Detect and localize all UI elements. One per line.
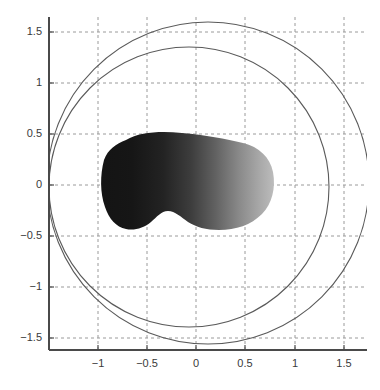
x-tick-label-2: −0.5 [122,357,172,369]
plot-area [0,0,380,390]
x-tick-label-4: 0.5 [220,357,270,369]
y-tick-label-1: 1.5 [4,25,42,37]
x-tick-label-3: 0 [171,357,221,369]
gradient-blob [101,132,274,230]
y-tick-label-7: −1.5 [4,331,42,343]
figure-canvas: 1.5 1 0.5 0 −0.5 −1 −1.5 −1 −0.5 0 0.5 1… [0,0,380,390]
y-tick-label-5: −0.5 [4,229,42,241]
x-tick-label-5: 1 [270,357,320,369]
y-tick-label-2: 1 [4,76,42,88]
x-tick-label-1: −1 [73,357,123,369]
y-tick-label-4: 0 [4,178,42,190]
x-tick-label-6: 1.5 [319,357,369,369]
y-tick-label-6: −1 [4,280,42,292]
y-tick-label-3: 0.5 [4,127,42,139]
